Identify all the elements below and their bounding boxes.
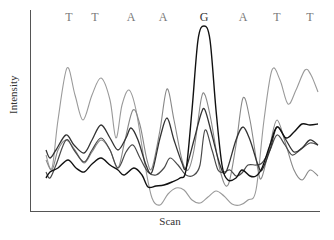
base-call-t: T: [273, 11, 280, 23]
trace-group: [46, 26, 318, 205]
base-call-t: T: [306, 11, 313, 23]
base-call-a: A: [159, 11, 168, 23]
base-call-a: A: [239, 11, 248, 23]
y-axis-label: Intensity: [7, 76, 19, 115]
y-axis-line: [30, 10, 31, 212]
trace-t-channel: [46, 67, 318, 205]
base-call-t: T: [65, 11, 72, 23]
x-axis-line: [30, 211, 320, 212]
trace-a-channel: [46, 89, 318, 186]
base-call-t: T: [91, 11, 98, 23]
x-axis-label: Scan: [159, 215, 180, 227]
trace-mid-dark-channel: [46, 108, 318, 173]
chromatogram-chart: [0, 0, 334, 240]
trace-c-channel: [46, 130, 318, 178]
base-call-g: G: [200, 11, 209, 23]
base-call-a: A: [127, 11, 136, 23]
